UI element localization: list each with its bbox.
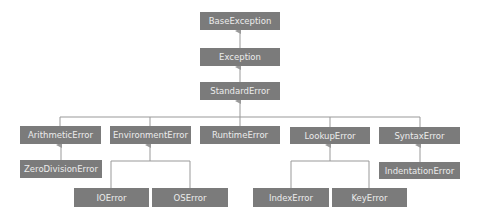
node-index-error: IndexError xyxy=(253,188,329,207)
edge-layer xyxy=(0,0,479,221)
node-runtime-error: RuntimeError xyxy=(200,126,280,144)
node-os-error: OSError xyxy=(152,188,228,207)
node-base-exception: BaseException xyxy=(200,12,280,30)
node-key-error: KeyError xyxy=(332,188,407,207)
node-zero-division-error: ZeroDivisionError xyxy=(20,160,102,178)
node-environment-error: EnvironmentError xyxy=(110,126,191,144)
node-io-error: IOError xyxy=(74,188,149,207)
node-lookup-error: LookupError xyxy=(290,127,370,144)
node-exception: Exception xyxy=(200,48,280,66)
node-standard-error: StandardError xyxy=(200,82,280,100)
node-indentation-error: IndentationError xyxy=(379,162,460,179)
node-syntax-error: SyntaxError xyxy=(379,127,460,144)
node-arithmetic-error: ArithmeticError xyxy=(20,126,101,144)
